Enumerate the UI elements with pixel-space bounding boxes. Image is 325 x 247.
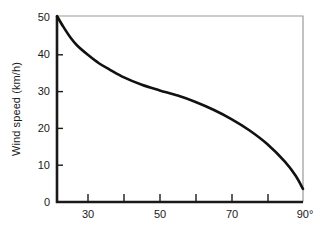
- wind-speed-curve: [57, 16, 303, 189]
- chart-figure: Wind speed (km/h) 0 10 20 30 40 50 30 50…: [0, 0, 325, 247]
- plot-area: [0, 0, 325, 247]
- x-tick-marks: [88, 194, 268, 201]
- axis-lines: [57, 16, 303, 202]
- plot-frame: [57, 16, 303, 202]
